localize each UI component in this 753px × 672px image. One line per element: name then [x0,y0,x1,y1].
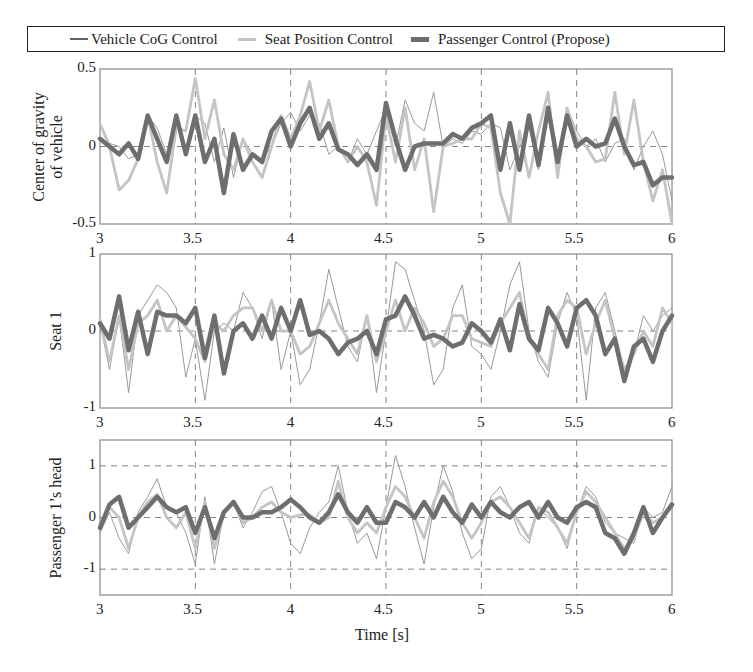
x-tick-label: 3 [96,601,104,618]
y-tick-label: 0 [89,137,97,154]
x-tick-label: 4.5 [374,414,393,431]
y-tick-label: -1 [84,559,97,576]
x-tick-label: 4 [287,601,295,618]
subplot-seat1 [100,254,672,408]
x-tick-label: 4.5 [374,601,393,618]
x-tick-label: 3 [96,414,104,431]
x-tick-label: 4.5 [374,230,393,247]
figure: Vehicle CoG Control Seat Position Contro… [0,0,753,672]
x-tick-label: 5.5 [565,601,584,618]
x-tick-label: 3 [96,230,104,247]
y-tick-label: 1 [89,244,97,261]
y-tick-label: -0.5 [72,214,96,231]
x-tick-label: 6 [668,230,676,247]
y-axis-label: Passenger 1’s head [47,428,65,608]
plot-area [0,0,753,672]
subplot-head [100,440,672,595]
x-tick-label: 5 [477,230,485,247]
x-tick-label: 3.5 [183,414,202,431]
x-tick-label: 5 [477,414,485,431]
series-line-seat-position [100,481,672,548]
y-axis-label: Seat 1 [47,241,65,421]
x-tick-label: 5 [477,601,485,618]
x-tick-label: 6 [668,601,676,618]
subplot-cog [100,69,672,224]
y-axis-label: Center of gravityof vehicle [30,57,66,237]
y-tick-label: 0.5 [77,59,96,76]
x-tick-label: 6 [668,414,676,431]
x-tick-label: 5.5 [565,230,584,247]
x-tick-label: 5.5 [565,414,584,431]
y-tick-label: 1 [89,456,97,473]
x-axis-label: Time [s] [355,626,409,644]
y-tick-label: 0 [89,321,97,338]
x-tick-label: 3.5 [183,601,202,618]
x-tick-label: 3.5 [183,230,202,247]
x-tick-label: 4 [287,414,295,431]
y-tick-label: -1 [84,398,97,415]
y-tick-label: 0 [89,508,97,525]
x-tick-label: 4 [287,230,295,247]
